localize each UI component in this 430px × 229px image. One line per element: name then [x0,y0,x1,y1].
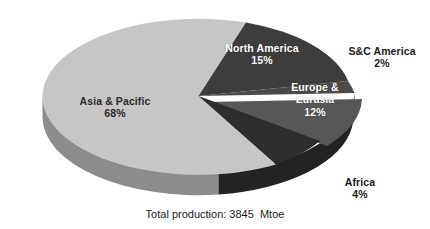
slice-label-europe-eurasia-value: 12% [276,106,354,118]
slice-label-north-america-value: 15% [210,54,314,66]
slice-label-north-america: North America 15% [210,42,314,67]
slice-label-sc-america-value: 2% [336,57,428,69]
slice-label-africa-value: 4% [330,188,390,200]
pie-chart: North America 15% S&C America 2% Europe … [0,0,430,229]
slice-label-asia-pacific-value: 68% [62,107,168,119]
slice-label-asia-pacific: Asia & Pacific 68% [62,95,168,120]
slice-label-europe-eurasia-name-2: Eurasia [276,93,354,105]
slice-label-north-america-name: North America [225,42,298,54]
slice-label-europe-eurasia: Europe & Eurasia 12% [276,81,354,118]
slice-label-sc-america-name: S&C America [348,45,415,57]
slice-label-africa: Africa 4% [330,176,390,201]
chart-caption: Total production: 3845 Mtoe [0,208,430,220]
slice-label-sc-america: S&C America 2% [336,45,428,70]
slice-label-asia-pacific-name: Asia & Pacific [80,95,151,107]
slice-label-europe-eurasia-name-1: Europe & [291,81,338,93]
slice-label-africa-name: Africa [345,176,375,188]
